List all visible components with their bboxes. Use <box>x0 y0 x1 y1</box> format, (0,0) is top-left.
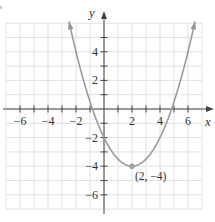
y-tick-label: −6 <box>85 188 98 202</box>
axes <box>3 11 214 214</box>
vertex-label: (2, −4) <box>135 170 167 183</box>
x-tick-label: −2 <box>70 114 83 128</box>
y-tick-label: −4 <box>85 159 98 173</box>
x-tick-label: −4 <box>42 114 55 128</box>
x-tick-label: −6 <box>14 114 27 128</box>
y-tick-label: 4 <box>92 45 98 59</box>
vertex-point <box>129 163 135 169</box>
x-tick-label: 6 <box>185 114 191 128</box>
y-tick-label: 2 <box>92 73 98 87</box>
x-axis-arrow-icon <box>206 106 214 112</box>
x-tick-label: 4 <box>157 114 163 128</box>
x-tick-label: 2 <box>129 114 135 128</box>
y-axis-arrow-icon <box>101 11 107 19</box>
y-tick-label: −2 <box>85 131 98 145</box>
x-axis-label: x <box>204 114 211 129</box>
y-axis-label: y <box>87 5 95 20</box>
parabola-chart: −6−4−224642−2−4−6 (2, −4) x y <box>0 0 215 222</box>
